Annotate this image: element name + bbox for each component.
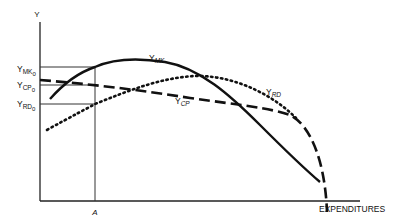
ymk0-label: YMK0 xyxy=(17,64,36,77)
yrd-curve-label: YRD xyxy=(266,87,281,98)
series-ymk xyxy=(50,59,320,182)
a-tick-label: A xyxy=(91,208,97,217)
series-yrd xyxy=(47,76,296,130)
ycp0-label: YCP0 xyxy=(17,80,36,93)
x-axis-label: EXPENDITURES xyxy=(319,204,385,214)
chart: Y EXPENDITURES A YMK0 YCP0 YRD0 YMK YCP … xyxy=(0,0,396,222)
y-axis-label: Y xyxy=(34,10,40,19)
yrd0-label: YRD0 xyxy=(17,99,36,112)
ymk-curve-label: YMK xyxy=(149,53,165,64)
